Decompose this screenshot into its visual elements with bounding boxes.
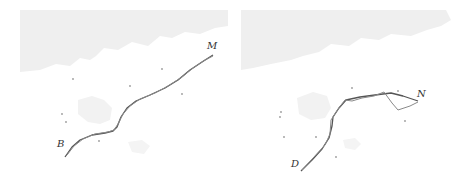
- station-dot: [280, 111, 282, 113]
- end-label-m: M: [207, 41, 217, 51]
- station-dot: [404, 120, 406, 122]
- start-label-b: B: [57, 139, 64, 149]
- trajectory-path-b: [67, 56, 213, 155]
- station-dot: [129, 85, 131, 87]
- station-dot: [335, 156, 337, 158]
- station-dot: [315, 136, 317, 138]
- station-dot: [161, 68, 163, 70]
- left-trajectories: [0, 0, 231, 180]
- trajectory-path-b: [302, 92, 418, 170]
- station-dot: [351, 87, 353, 89]
- station-dot: [61, 113, 63, 115]
- right-panel: D N: [231, 0, 462, 180]
- start-label-d: D: [291, 159, 299, 169]
- station-dot: [65, 121, 67, 123]
- station-dot: [283, 136, 285, 138]
- station-dot: [72, 78, 74, 80]
- trajectory-path-a: [301, 93, 418, 171]
- station-dot: [397, 90, 399, 92]
- station-dot: [98, 140, 100, 142]
- station-dot: [181, 93, 183, 95]
- station-dot: [279, 116, 281, 118]
- end-label-n: N: [417, 89, 426, 99]
- left-panel: B M: [0, 0, 231, 180]
- right-trajectories: [231, 0, 462, 180]
